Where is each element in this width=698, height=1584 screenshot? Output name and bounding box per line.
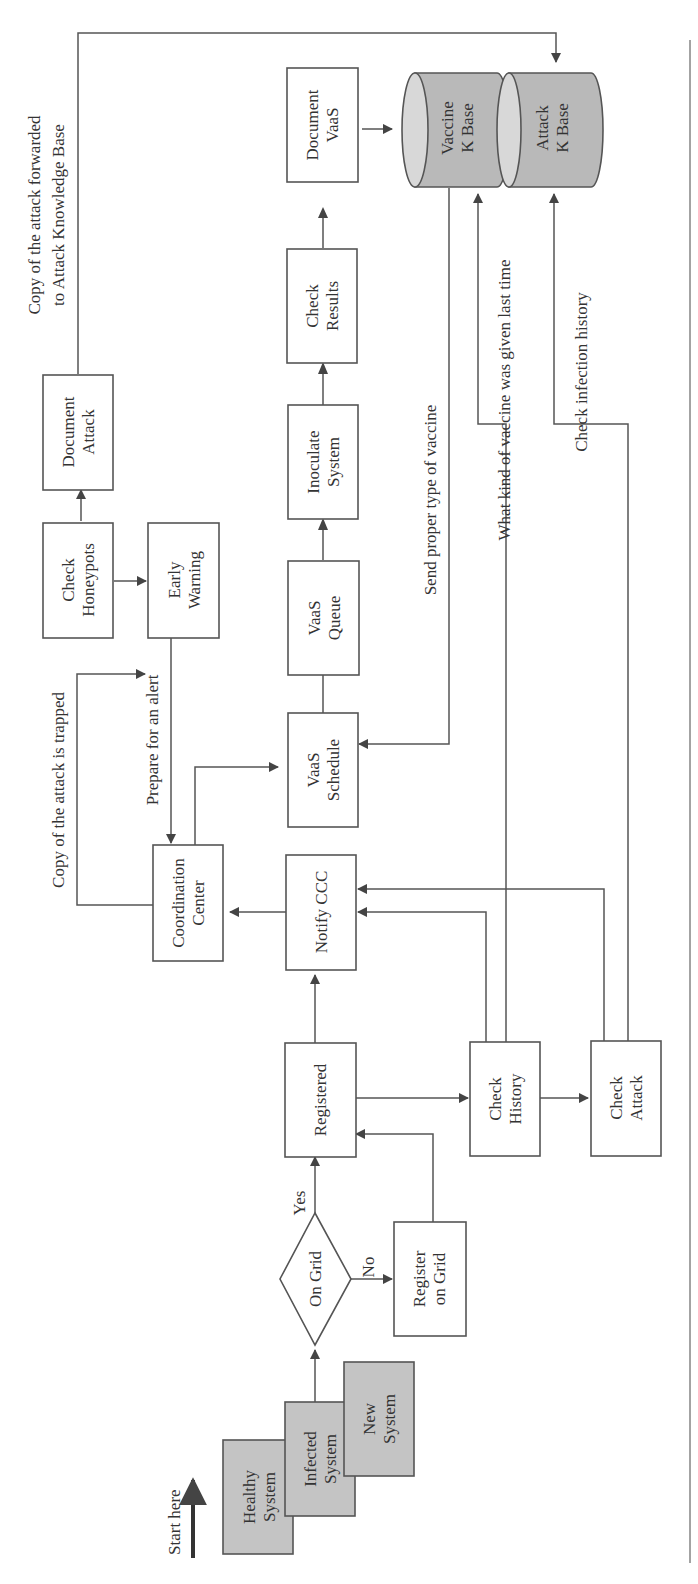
inoculate-system-label-1: Inoculate xyxy=(304,430,323,493)
early-warning-label-2: Warning xyxy=(185,550,204,609)
copy-forwarded-label-line2: to Attack Knowledge Base xyxy=(49,124,68,306)
flowchart-diagram: Start here Yes No Copy of the attack is … xyxy=(0,0,698,1584)
node-check-attack[interactable] xyxy=(591,1041,661,1156)
copy-forwarded-label-line1: Copy of the attack forwarded xyxy=(25,115,44,315)
send-vaccine-label: Send proper type of vaccine xyxy=(421,405,440,596)
check-results-label-2: Results xyxy=(323,281,342,331)
node-check-history[interactable] xyxy=(470,1042,540,1156)
document-attack-label-1: Document xyxy=(59,396,78,467)
check-attack-label-2: Attack xyxy=(627,1075,646,1121)
check-infection-label: Check infection history xyxy=(572,292,591,452)
node-new-system[interactable] xyxy=(344,1362,414,1476)
node-document-attack[interactable] xyxy=(43,375,113,490)
healthy-system-label-2: System xyxy=(260,1472,279,1522)
check-honeypots-label-1: Check xyxy=(59,558,78,602)
check-history-label-2: History xyxy=(506,1073,525,1125)
node-coordination-center[interactable] xyxy=(153,845,223,961)
node-check-results[interactable] xyxy=(287,249,357,363)
new-system-label-1: New xyxy=(360,1402,379,1435)
yes-label: Yes xyxy=(290,1191,309,1216)
vaccine-kbase-label-1: Vaccine xyxy=(438,101,457,155)
document-attack-label-2: Attack xyxy=(79,409,98,455)
what-vaccine-label: What kind of vaccine was given last time xyxy=(495,260,514,541)
notify-ccc-label: Notify CCC xyxy=(312,871,331,954)
on-grid-label: On Grid xyxy=(306,1250,325,1307)
check-history-label-1: Check xyxy=(486,1077,505,1121)
copy-trapped-label: Copy of the attack is trapped xyxy=(49,692,68,888)
check-attack-label-1: Check xyxy=(607,1076,626,1120)
attack-kbase-label-1: Attack xyxy=(533,105,552,151)
vaas-queue-label-2: Queue xyxy=(325,596,344,640)
check-results-label-1: Check xyxy=(303,284,322,328)
check-honeypots-label-2: Honeypots xyxy=(79,543,98,617)
new-system-label-2: System xyxy=(380,1394,399,1444)
node-inoculate-system[interactable] xyxy=(288,405,358,519)
infected-system-label-2: System xyxy=(321,1434,340,1484)
attack-kbase-label-2: K Base xyxy=(553,103,572,153)
coordination-center-label-2: Center xyxy=(189,880,208,926)
node-check-honeypots[interactable] xyxy=(43,523,113,638)
vaas-schedule-label-2: Schedule xyxy=(324,739,343,801)
register-on-grid-label-1: Register xyxy=(410,1250,429,1307)
healthy-system-label-1: Healthy xyxy=(240,1470,259,1524)
vaccine-kbase-label-2: K Base xyxy=(458,103,477,153)
no-label: No xyxy=(359,1257,378,1278)
registered-label: Registered xyxy=(311,1063,330,1136)
document-vaas-label-2: VaaS xyxy=(323,108,342,143)
inoculate-system-label-2: System xyxy=(324,437,343,487)
prepare-alert-label: Prepare for an alert xyxy=(143,674,162,805)
infected-system-label-1: Infected xyxy=(301,1431,320,1487)
register-on-grid-label-2: on Grid xyxy=(430,1252,449,1305)
node-vaas-schedule[interactable] xyxy=(288,713,358,827)
vaas-queue-label-1: VaaS xyxy=(305,601,324,636)
vaas-schedule-label-1: VaaS xyxy=(304,753,323,788)
start-here-label: Start here xyxy=(165,1489,184,1555)
early-warning-label-1: Early xyxy=(165,561,184,598)
coordination-center-label-1: Coordination xyxy=(169,858,188,948)
document-vaas-label-1: Document xyxy=(303,89,322,160)
